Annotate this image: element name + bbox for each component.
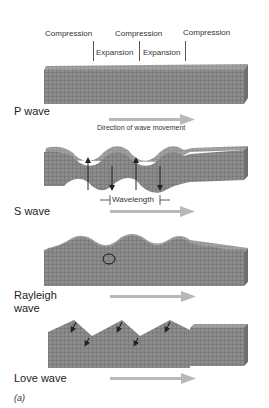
s-wave-block: [44, 146, 248, 193]
p-wave-label: P wave: [14, 105, 50, 118]
divider-line: [185, 41, 186, 61]
love-wave-block: [48, 320, 248, 368]
rayleigh-wave-label-line1: Rayleigh: [14, 289, 57, 302]
wavelength-label: Wavelength: [112, 195, 154, 204]
label-compression-3: Compression: [183, 28, 230, 37]
s-wave-label: S wave: [14, 205, 50, 218]
rayleigh-wave-block: [44, 234, 248, 286]
label-compression-1: Compression: [45, 29, 92, 38]
rayleigh-wave-label-line2: wave: [14, 302, 40, 315]
divider-line: [139, 41, 140, 61]
p-wave-block: [44, 64, 248, 104]
label-expansion-2: Expansion: [143, 48, 180, 57]
rayleigh-wave-direction-arrow: [110, 291, 196, 302]
love-wave-label: Love wave: [14, 372, 67, 385]
panel-label: (a): [14, 393, 25, 403]
divider-line: [93, 41, 94, 61]
direction-caption: Direction of wave movement: [97, 124, 185, 131]
s-wave-direction-arrow: [110, 206, 195, 217]
label-expansion-1: Expansion: [96, 48, 133, 57]
love-wave-direction-arrow: [110, 373, 196, 384]
label-compression-2: Compression: [115, 29, 162, 38]
seismic-waves-diagram: [0, 0, 269, 408]
